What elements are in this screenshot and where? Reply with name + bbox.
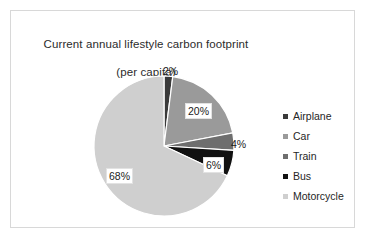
legend-item-label: Car (293, 126, 310, 146)
pie-svg (79, 61, 249, 231)
pie-data-label: 68% (106, 168, 133, 184)
legend-item-label: Motorcycle (293, 186, 344, 206)
legend-item-car[interactable]: Car (283, 126, 365, 146)
chart-legend: AirplaneCarTrainBusMotorcycle (283, 106, 365, 206)
pie-slice-group (94, 76, 234, 216)
legend-item-motorcycle[interactable]: Motorcycle (283, 186, 365, 206)
chart-frame: Current annual lifestyle carbon footprin… (10, 10, 355, 228)
pie-data-label: 6% (203, 157, 224, 173)
pie-data-label: 2% (163, 65, 178, 77)
legend-item-airplane[interactable]: Airplane (283, 106, 365, 126)
legend-item-label: Train (293, 146, 317, 166)
chart-title-line-1: Current annual lifestyle carbon footprin… (44, 38, 249, 50)
legend-swatch-icon (283, 194, 288, 199)
legend-item-bus[interactable]: Bus (283, 166, 365, 186)
legend-swatch-icon (283, 174, 288, 179)
legend-item-train[interactable]: Train (283, 146, 365, 166)
legend-item-label: Airplane (293, 106, 332, 126)
pie-data-label: 20% (185, 103, 212, 119)
legend-swatch-icon (283, 154, 288, 159)
legend-item-label: Bus (293, 166, 311, 186)
legend-swatch-icon (283, 134, 288, 139)
legend-swatch-icon (283, 114, 288, 119)
pie-data-label: 4% (231, 138, 246, 150)
chart-image: Current annual lifestyle carbon footprin… (0, 0, 368, 244)
pie-chart: 2%20%4%6%68% (79, 61, 249, 231)
